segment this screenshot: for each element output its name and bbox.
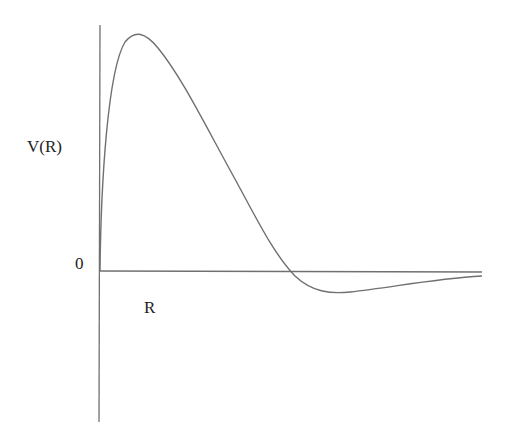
x-axis-label: R bbox=[144, 298, 155, 318]
potential-curve-plot bbox=[0, 0, 505, 446]
zero-label: 0 bbox=[75, 254, 84, 274]
y-axis-label: V(R) bbox=[27, 137, 62, 157]
y-axis bbox=[99, 25, 100, 422]
potential-curve bbox=[100, 34, 482, 292]
